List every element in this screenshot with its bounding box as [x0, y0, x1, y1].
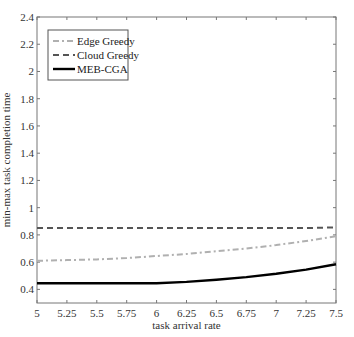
y-tick-label: 0.8: [20, 229, 34, 241]
y-axis-label: min-max task completion time: [0, 93, 12, 228]
y-tick-label: 0.6: [20, 256, 34, 268]
y-tick-label: 2.4: [20, 11, 34, 23]
legend-label: MEB-CGA: [77, 63, 128, 75]
y-tick-label: 2: [29, 65, 35, 77]
legend-label: Cloud Greedy: [77, 49, 140, 61]
legend-label: Edge Greedy: [77, 35, 135, 47]
x-tick-label: 6.25: [177, 307, 197, 319]
x-tick-label: 6.75: [237, 307, 257, 319]
x-tick-label: 5.5: [90, 307, 104, 319]
x-tick-label: 7.5: [329, 307, 343, 319]
x-tick-label: 7: [273, 307, 279, 319]
y-tick-label: 1.8: [20, 93, 34, 105]
y-tick-label: 2.2: [20, 38, 34, 50]
y-tick-label: 1: [29, 202, 35, 214]
y-tick-label: 1.4: [20, 147, 34, 159]
x-tick-label: 7.25: [296, 307, 316, 319]
x-tick-label: 6: [154, 307, 160, 319]
y-tick-label: 1.2: [20, 174, 34, 186]
y-tick-label: 1.6: [20, 120, 34, 132]
x-tick-label: 6.5: [210, 307, 224, 319]
x-tick-label: 5: [34, 307, 40, 319]
x-tick-label: 5.25: [57, 307, 77, 319]
x-tick-label: 5.75: [117, 307, 137, 319]
line-chart: 55.255.55.7566.256.56.7577.257.50.40.60.…: [0, 0, 354, 337]
x-axis-label: task arrival rate: [152, 319, 221, 331]
y-tick-label: 0.4: [20, 283, 34, 295]
